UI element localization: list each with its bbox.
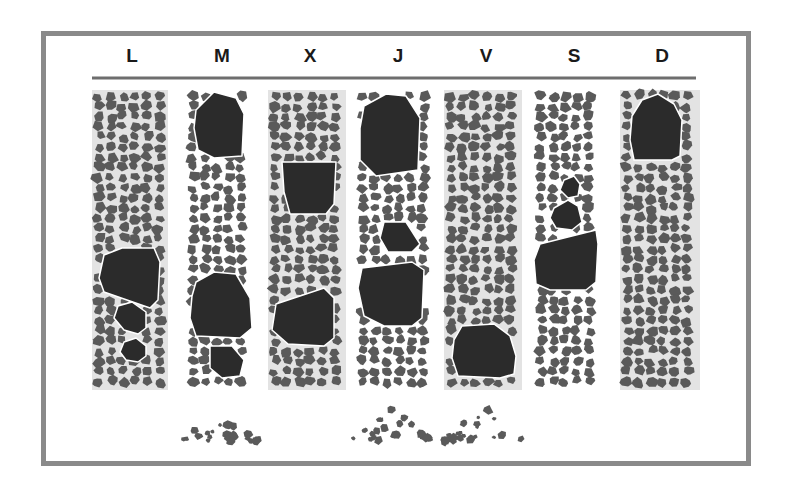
debris-pile-v	[440, 405, 524, 446]
column-m	[186, 90, 253, 387]
column-label-m: M	[214, 45, 230, 66]
debris-piles	[181, 405, 524, 446]
column-l	[90, 90, 168, 390]
column-d	[619, 88, 700, 390]
boulder	[358, 262, 424, 326]
debris-pile-j	[351, 406, 433, 445]
column-x	[267, 90, 346, 390]
column-s	[533, 90, 598, 387]
column-v	[443, 90, 522, 390]
column-label-d: D	[655, 45, 669, 66]
column-j	[356, 90, 431, 389]
boulder	[194, 92, 244, 158]
column-label-v: V	[480, 45, 493, 66]
column-diagram: L M X J V S D	[0, 0, 785, 485]
column-labels: L M X J V S D	[126, 45, 669, 66]
column-label-l: L	[126, 45, 138, 66]
columns	[90, 88, 700, 390]
column-label-x: X	[304, 45, 317, 66]
column-label-j: J	[393, 45, 404, 66]
boulder	[380, 222, 420, 252]
boulder	[282, 162, 336, 214]
debris-pile-m	[181, 420, 262, 445]
boulder	[360, 94, 420, 176]
column-label-s: S	[568, 45, 581, 66]
